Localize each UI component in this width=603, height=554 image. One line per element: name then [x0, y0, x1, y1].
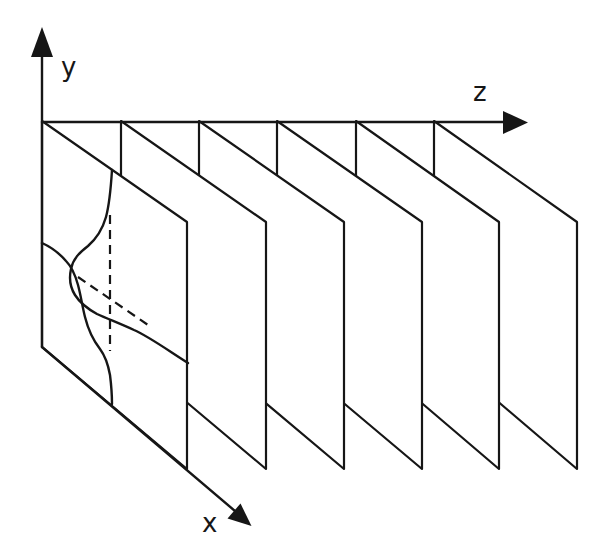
figure-page: y z x	[0, 0, 603, 554]
y-axis-arrowhead-icon	[31, 27, 53, 57]
z-axis-arrowhead-icon	[503, 111, 528, 134]
plane-stack	[42, 121, 577, 469]
x-axis-label: x	[202, 508, 217, 538]
y-axis-label: y	[61, 52, 76, 82]
figure-canvas: y z x	[0, 0, 603, 554]
z-axis-label: z	[473, 77, 487, 107]
